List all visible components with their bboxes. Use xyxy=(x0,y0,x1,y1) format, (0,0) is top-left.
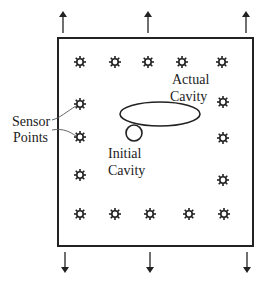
sensor-star-icon xyxy=(74,98,86,110)
cavity-sensor-diagram: Actual Cavity Initial Cavity Sensor Poin… xyxy=(0,0,267,284)
sensor-star-icon xyxy=(74,169,86,181)
tension-arrows-top xyxy=(63,14,246,33)
sensor-star-icon xyxy=(109,208,121,220)
sensor-star-icon xyxy=(144,208,156,220)
leader-line-upper xyxy=(52,106,76,120)
sensor-star-icon xyxy=(217,132,229,144)
actual-cavity-ellipse xyxy=(120,102,200,126)
initial-cavity-label: Initial Cavity xyxy=(108,146,145,178)
sensor-star-icon xyxy=(74,56,86,68)
sensor-star-icon xyxy=(216,56,228,68)
sensor-star-icon xyxy=(74,208,86,220)
sensor-star-icon xyxy=(217,174,229,186)
sensor-star-icon xyxy=(74,131,86,143)
sensor-star-icon xyxy=(142,56,154,68)
initial-cavity-circle xyxy=(126,125,142,141)
leader-line-lower xyxy=(52,129,76,136)
tension-arrows-bottom xyxy=(65,252,247,270)
sensor-star-icon xyxy=(218,208,230,220)
sensor-star-icon xyxy=(183,208,195,220)
sensor-star-icon xyxy=(217,96,229,108)
sensor-star-icon xyxy=(176,56,188,68)
sensor-points-label: Sensor Points xyxy=(12,114,54,145)
actual-cavity-label: Actual Cavity xyxy=(170,72,213,104)
sensor-star-icon xyxy=(109,56,121,68)
